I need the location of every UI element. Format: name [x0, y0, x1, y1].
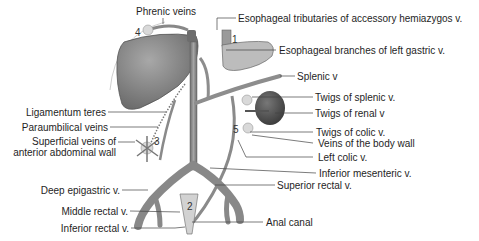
label-anal-canal: Anal canal: [266, 217, 313, 228]
site-5b-circle: [243, 123, 253, 133]
site-number-1: 1: [232, 35, 238, 45]
label-esophageal-tributaries: Esophageal tributaries of accessory hemi…: [238, 13, 462, 24]
site-number-4: 4: [135, 28, 141, 38]
site-number-3: 3: [154, 137, 160, 147]
label-ligamentum-teres: Ligamentum teres: [0, 107, 106, 118]
label-splenic-v: Splenic v: [297, 71, 338, 82]
portal-trunk: [190, 42, 197, 170]
site-4-circle: [143, 25, 153, 35]
label-superior-rectal: Superior rectal v.: [277, 180, 352, 191]
label-paraumbilical-veins: Paraumbilical veins: [0, 122, 108, 133]
label-superficial-veins-line1: Superficial veins of: [0, 136, 116, 147]
liver: [117, 34, 198, 109]
site-number-2: 2: [187, 202, 193, 212]
label-deep-epigastric: Deep epigastric v.: [0, 185, 120, 196]
label-middle-rectal: Middle rectal v.: [0, 206, 128, 217]
label-phrenic-veins: Phrenic veins: [136, 6, 196, 17]
label-left-colic: Left colic v.: [318, 152, 367, 163]
site-5a-circle: [242, 95, 252, 105]
label-esophageal-branches: Esophageal branches of left gastric v.: [279, 45, 445, 56]
kidney: [255, 91, 285, 125]
label-twigs-renal: Twigs of renal v: [315, 108, 384, 119]
label-twigs-splenic: Twigs of splenic v.: [315, 92, 395, 103]
site-number-5: 5: [233, 125, 239, 135]
rectum: [180, 194, 198, 234]
label-twigs-colic: Twigs of colic v.: [316, 127, 385, 138]
label-inferior-rectal: Inferior rectal v.: [0, 223, 129, 234]
stomach: [222, 41, 273, 70]
label-veins-body-wall: Veins of the body wall: [318, 138, 415, 149]
label-inferior-mesenteric: Inferior mesenteric v.: [319, 168, 412, 179]
diagram-artwork: [0, 0, 479, 241]
portal-systemic-anastomoses-diagram: 4 1 3 5 2 Phrenic veins Esophageal tribu…: [0, 0, 479, 241]
label-superficial-veins-line2: anterior abdominal wall: [0, 147, 116, 158]
